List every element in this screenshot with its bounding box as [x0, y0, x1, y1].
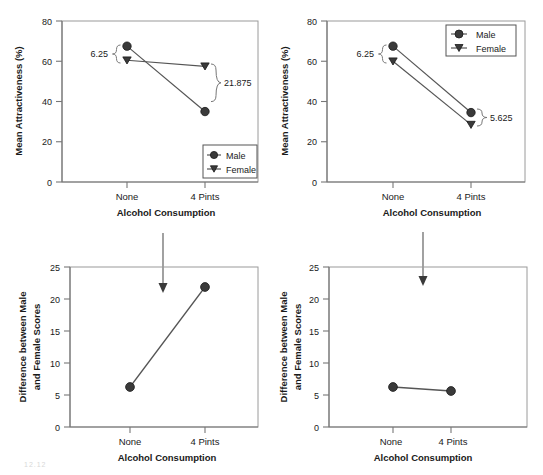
x-tick-group: None 4 Pints	[119, 427, 220, 447]
data-point-male-4pints	[467, 108, 475, 116]
x-tick-label-none: None	[116, 191, 139, 202]
series-line-female	[393, 61, 471, 124]
y-tick-label: 0	[314, 423, 319, 433]
y-tick-label: 5	[55, 391, 60, 401]
x-tick-label-none: None	[380, 436, 403, 447]
data-point-none	[389, 383, 398, 392]
legend[interactable]: Male Female	[446, 25, 516, 56]
chart-top-left: 0 20 40 60 80 None 4 Pints Alcohol Consu…	[0, 0, 272, 235]
data-point-4pints	[447, 387, 456, 396]
x-axis-title: Alcohol Consumption	[118, 452, 217, 463]
series-line-female	[127, 60, 205, 66]
y-axis-title-line1: Difference between Male	[278, 292, 289, 403]
annotation-label-6-25: 6.25	[356, 49, 374, 59]
y-tick-label: 10	[309, 359, 319, 369]
annotation-label-6-25: 6.25	[90, 49, 108, 59]
annotation-brace-21-875: 21.875	[211, 64, 252, 102]
legend-label-female: Female	[476, 44, 506, 54]
y-tick-group: 0 5 10 15 20 25	[309, 263, 329, 433]
x-axis-title: Alcohol Consumption	[374, 452, 473, 463]
y-axis-title: Mean Attractiveness (%)	[13, 46, 24, 155]
annotation-label-5-625: 5.625	[490, 113, 513, 123]
y-axis-title-line2: and Female Scores	[31, 304, 42, 391]
legend-marker-male-icon	[455, 30, 463, 38]
chart-top-right: 0 20 40 60 80 None 4 Pints Alcohol Consu…	[271, 0, 543, 235]
chart-bottom-right-svg: 0 5 10 15 20 25 None 4 Pints Alcohol Con…	[271, 240, 543, 475]
y-tick-label: 25	[50, 263, 60, 273]
y-axis-title: Mean Attractiveness (%)	[279, 46, 290, 155]
data-point-male-none	[123, 42, 131, 50]
chart-bottom-right: 0 5 10 15 20 25 None 4 Pints Alcohol Con…	[271, 240, 543, 475]
y-tick-label: 20	[42, 137, 52, 147]
annotation-label-21-875: 21.875	[224, 78, 252, 88]
plot-frame	[70, 267, 258, 427]
y-tick-label: 80	[307, 17, 317, 27]
x-tick-label-4pints: 4 Pints	[190, 191, 219, 202]
y-tick-group: 0 20 40 60 80	[307, 17, 327, 188]
y-tick-label: 40	[42, 97, 52, 107]
legend-label-female: Female	[226, 165, 256, 175]
y-tick-group: 0 5 10 15 20 25	[50, 263, 70, 433]
figure-panel-grid: 0 20 40 60 80 None 4 Pints Alcohol Consu…	[0, 0, 543, 475]
y-axis-title-line1: Difference between Male	[17, 292, 28, 403]
y-tick-label: 60	[307, 57, 317, 67]
chart-bottom-left: 0 5 10 15 20 25 None 4 Pints Alcohol Con…	[0, 240, 272, 475]
x-tick-label-4pints: 4 Pints	[456, 191, 485, 202]
y-tick-label: 15	[50, 327, 60, 337]
y-tick-label: 80	[42, 17, 52, 27]
y-tick-label: 40	[307, 97, 317, 107]
y-tick-label: 0	[47, 178, 52, 188]
data-point-male-4pints	[201, 107, 209, 115]
chart-bottom-left-svg: 0 5 10 15 20 25 None 4 Pints Alcohol Con…	[0, 240, 272, 475]
series-line-difference	[130, 287, 205, 387]
legend[interactable]: Male Female	[203, 145, 257, 178]
y-tick-label: 5	[314, 391, 319, 401]
plot-frame	[329, 267, 527, 427]
y-tick-label: 60	[42, 57, 52, 67]
series-line-male	[127, 46, 205, 111]
legend-marker-male-icon	[210, 151, 217, 158]
y-tick-label: 10	[50, 359, 60, 369]
annotation-brace-5-625: 5.625	[477, 109, 513, 126]
y-tick-label: 0	[55, 423, 60, 433]
chart-top-left-svg: 0 20 40 60 80 None 4 Pints Alcohol Consu…	[0, 0, 272, 235]
x-tick-label-none: None	[119, 436, 142, 447]
y-tick-group: 0 20 40 60 80	[42, 17, 62, 188]
data-point-female-4pints	[467, 121, 475, 128]
caption-artifact: 12.12	[24, 461, 84, 469]
legend-label-male: Male	[476, 30, 496, 40]
x-tick-label-4pints: 4 Pints	[190, 436, 219, 447]
data-point-4pints	[201, 283, 210, 292]
data-point-none	[126, 383, 135, 392]
data-point-male-none	[389, 42, 397, 50]
x-tick-label-none: None	[382, 191, 405, 202]
y-tick-label: 20	[307, 137, 317, 147]
x-axis-title: Alcohol Consumption	[117, 207, 216, 218]
series-line-difference	[393, 387, 451, 391]
y-tick-label: 25	[309, 263, 319, 273]
annotation-brace-6-25: 6.25	[90, 45, 120, 63]
y-tick-label: 15	[309, 327, 319, 337]
y-tick-label: 20	[50, 295, 60, 305]
x-tick-group: None 4 Pints	[382, 182, 486, 202]
annotation-brace-6-25: 6.25	[356, 45, 386, 63]
chart-top-right-svg: 0 20 40 60 80 None 4 Pints Alcohol Consu…	[271, 0, 543, 235]
legend-label-male: Male	[226, 151, 246, 161]
x-tick-group: None 4 Pints	[380, 427, 468, 447]
x-axis-title: Alcohol Consumption	[383, 207, 482, 218]
y-axis-title-line2: and Female Scores	[292, 304, 303, 391]
y-tick-label: 20	[309, 295, 319, 305]
x-tick-label-4pints: 4 Pints	[438, 436, 467, 447]
y-tick-label: 0	[312, 178, 317, 188]
x-tick-group: None 4 Pints	[116, 182, 220, 202]
